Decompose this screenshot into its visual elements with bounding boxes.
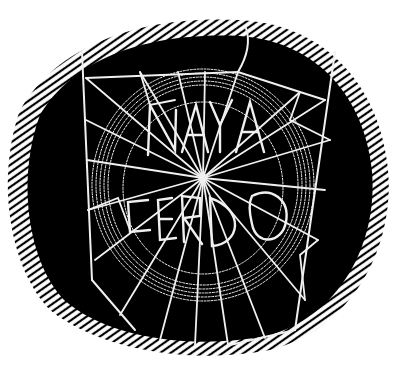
- web-artwork: [0, 0, 395, 365]
- spider-web-illustration: [0, 0, 395, 365]
